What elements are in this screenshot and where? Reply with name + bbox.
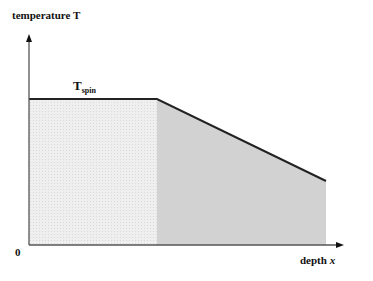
plateau-label: Tspin (73, 78, 96, 95)
y-axis-arrow-icon (26, 34, 32, 42)
plateau-region (29, 99, 157, 245)
x-axis-label: depth x (300, 254, 335, 266)
origin-label: 0 (15, 246, 21, 258)
x-axis-label-text: depth (300, 254, 330, 266)
x-axis-arrow-icon (336, 242, 344, 248)
plateau-label-main: T (73, 78, 82, 93)
temperature-depth-diagram (0, 0, 373, 281)
slope-region (157, 99, 326, 245)
y-axis-label: temperature T (12, 9, 80, 21)
x-axis-label-var: x (330, 254, 336, 266)
plateau-label-sub: spin (82, 86, 96, 95)
